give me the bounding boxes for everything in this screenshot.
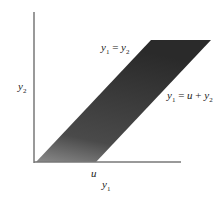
diagram: y1 = y2 y1 = u + y2 y2 u y1: [0, 0, 223, 197]
line-label-y1-eq-y2: y1 = y2: [101, 41, 130, 56]
x-axis-label: y1: [102, 178, 110, 193]
x-tick-u: u: [91, 167, 97, 179]
line-label-y1-eq-u-plus-y2: y1 = u + y2: [167, 89, 213, 104]
y-axis-label: y2: [18, 80, 26, 95]
